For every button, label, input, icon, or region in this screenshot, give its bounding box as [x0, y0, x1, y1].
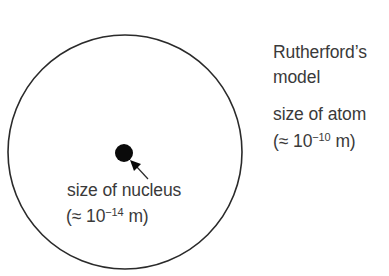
nucleus-dot — [115, 144, 133, 162]
title-line-2: model — [273, 67, 320, 87]
nucleus-size-prefix: (≈ 10 — [66, 206, 105, 226]
nucleus-size-exponent: −14 — [105, 206, 123, 218]
atom-size-exponent: −10 — [312, 131, 330, 143]
atom-size-prefix: (≈ 10 — [273, 131, 312, 151]
atom-size-unit: m) — [331, 131, 356, 151]
title-line-1: Rutherford’s — [273, 42, 367, 62]
nucleus-size-label: size of nucleus — [67, 180, 181, 200]
nucleus-size-value: (≈ 10−14 m) — [66, 206, 149, 226]
atom-size-label: size of atom — [273, 104, 366, 124]
nucleus-size-unit: m) — [124, 206, 149, 226]
atom-size-value: (≈ 10−10 m) — [273, 131, 356, 151]
nucleus-arrow-icon — [130, 160, 148, 179]
